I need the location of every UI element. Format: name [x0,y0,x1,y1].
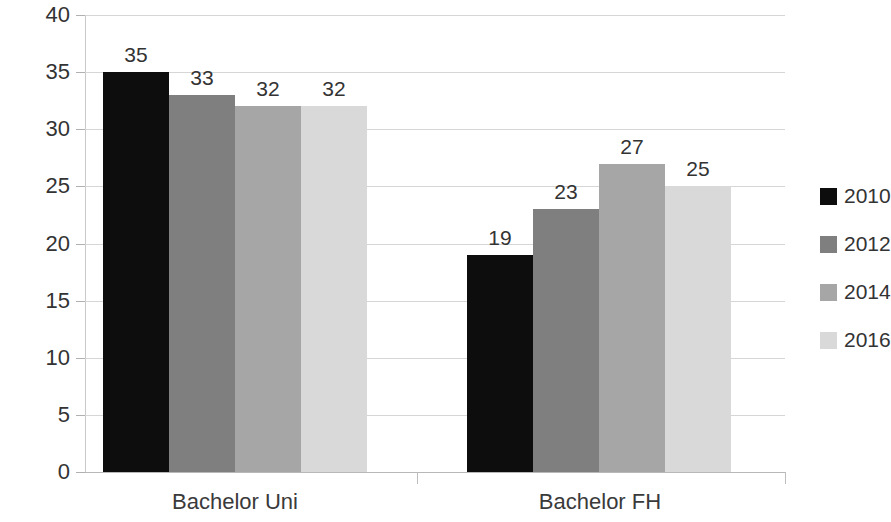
bar-value-label-bachelor-fh-2012: 23 [533,181,599,202]
y-tick-15 [76,301,85,302]
bar-value-label-bachelor-fh-2016: 25 [665,158,731,179]
y-tick-25 [76,186,85,187]
y-axis-label-30: 30 [2,118,70,140]
y-axis-label-25: 25 [2,175,70,197]
bar-value-label-bachelor-fh-2014: 27 [599,136,665,157]
bar-bachelor-fh-2012[interactable] [533,209,599,472]
legend-label-2010: 2010 [844,184,891,207]
bar-bachelor-fh-2010[interactable] [467,255,533,472]
y-axis-label-5: 5 [2,404,70,426]
legend-label-2012: 2012 [844,232,891,255]
bar-bachelor-uni-2012[interactable] [169,95,235,472]
category-label-bachelor-uni: Bachelor Uni [135,490,335,514]
legend-item-2010[interactable]: 2010 [818,184,888,232]
bar-value-label-bachelor-uni-2010: 35 [103,44,169,65]
legend-item-2012[interactable]: 2012 [818,232,888,280]
y-tick-20 [76,244,85,245]
legend-label-2014: 2014 [844,280,891,303]
group-separator-tick [417,472,418,484]
legend-swatch-icon-2014 [820,284,837,301]
legend-swatch-icon-2012 [820,236,837,253]
bar-value-label-bachelor-uni-2012: 33 [169,67,235,88]
y-tick-0 [76,472,85,473]
bar-bachelor-uni-2014[interactable] [235,106,301,472]
legend-swatch-icon-2010 [820,188,837,205]
y-axis-label-0: 0 [2,461,70,483]
y-axis-labels: 0510152025303540 [0,0,70,522]
legend-item-2014[interactable]: 2014 [818,280,888,328]
bar-value-label-bachelor-fh-2010: 19 [467,227,533,248]
legend-swatch-icon-2016 [820,332,837,349]
legend-item-2016[interactable]: 2016 [818,328,888,376]
y-tick-35 [76,72,85,73]
bar-bachelor-fh-2016[interactable] [665,186,731,472]
bar-value-label-bachelor-uni-2014: 32 [235,78,301,99]
bar-bachelor-uni-2016[interactable] [301,106,367,472]
y-tick-10 [76,358,85,359]
legend: 2010201220142016 [818,184,888,376]
y-axis-label-40: 40 [2,4,70,26]
y-axis-label-20: 20 [2,233,70,255]
bar-bachelor-uni-2010[interactable] [103,72,169,472]
bar-value-label-bachelor-uni-2016: 32 [301,78,367,99]
gridline-0 [85,472,785,473]
bar-bachelor-fh-2014[interactable] [599,164,665,472]
legend-label-2016: 2016 [844,328,891,351]
category-label-bachelor-fh: Bachelor FH [500,490,700,514]
y-tick-40 [76,15,85,16]
y-axis-label-10: 10 [2,347,70,369]
y-tick-5 [76,415,85,416]
y-tick-30 [76,129,85,130]
y-axis-label-15: 15 [2,290,70,312]
axis-end-tick [785,472,786,484]
gridline-40 [85,15,785,16]
y-axis-label-35: 35 [2,61,70,83]
